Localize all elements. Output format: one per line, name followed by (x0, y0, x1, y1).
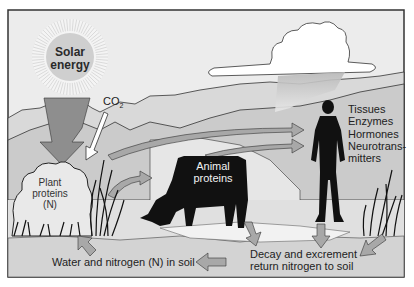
plant-label-line1: Plant (28, 177, 72, 188)
human-label-mitters: mitters (348, 152, 406, 164)
solar-label-line2: energy (44, 59, 96, 72)
plant-proteins-label: Plant proteins (N) (28, 177, 72, 211)
co2-label: CO2 (103, 95, 123, 110)
decay-label-line1: Decay and excrement (250, 248, 357, 260)
soil-nitrogen-label: Water and nitrogen (N) in soil (52, 256, 195, 268)
animal-proteins-label: Animal proteins (183, 160, 243, 185)
plant-label-line2: proteins (28, 188, 72, 199)
solar-energy-label: Solar energy (44, 46, 96, 73)
decay-label: Decay and excrement return nitrogen to s… (250, 248, 357, 273)
decay-label-line2: return nitrogen to soil (250, 260, 357, 272)
solar-label-line1: Solar (44, 46, 96, 59)
animal-label-line2: proteins (183, 172, 243, 184)
animal-label-line1: Animal (183, 160, 243, 172)
co2-text: CO (103, 95, 120, 107)
co2-subscript: 2 (120, 102, 124, 109)
human-label-neurotrans: Neurotrans- (348, 140, 406, 152)
plant-label-line3: (N) (28, 199, 72, 210)
human-label-tissues: Tissues (348, 103, 406, 115)
human-label-enzymes: Enzymes (348, 115, 406, 127)
human-label-hormones: Hormones (348, 128, 406, 140)
human-uses-label: Tissues Enzymes Hormones Neurotrans- mit… (348, 103, 406, 165)
